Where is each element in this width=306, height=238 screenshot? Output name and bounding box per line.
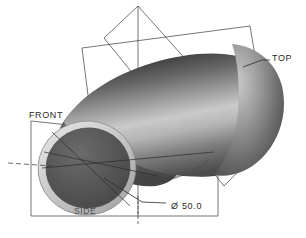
cad-model-canvas[interactable]: TOP FRONT SIDE Ø 50.0	[0, 0, 306, 238]
datum-label-side: SIDE	[74, 206, 96, 216]
cad-viewport[interactable]: TOP FRONT SIDE Ø 50.0	[0, 0, 306, 238]
datum-label-top: TOP	[272, 53, 292, 63]
dimension-label-diameter: Ø 50.0	[171, 201, 202, 211]
datum-label-front: FRONT	[29, 110, 63, 120]
